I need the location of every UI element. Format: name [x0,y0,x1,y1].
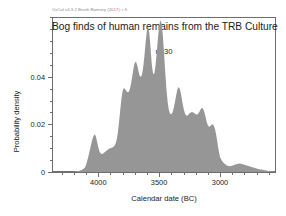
y-tick [48,77,52,78]
x-tick [135,173,136,175]
x-tick [123,173,124,175]
x-axis-title: Calendar date (BC) [52,194,276,203]
x-tick [232,173,233,175]
x-tick [269,173,270,175]
y-tick [50,65,52,66]
y-tick [50,160,52,161]
y-tick-label: 0.02 [0,120,45,129]
x-tick-label: 3500 [151,178,167,187]
x-tick [196,173,197,175]
y-tick-label: 0.04 [0,72,45,81]
x-tick [220,173,221,177]
y-tick [50,17,52,18]
x-tick-label: 4000 [90,178,106,187]
x-tick [159,173,160,177]
x-tick-label: 3000 [212,178,228,187]
x-tick [86,173,87,175]
y-tick [48,124,52,125]
y-tick [48,172,52,173]
x-tick [208,173,209,175]
x-tick [257,173,258,175]
x-tick [110,173,111,175]
y-tick [50,41,52,42]
y-tick-label: 0 [0,168,45,177]
x-tick [62,173,63,175]
x-tick [74,173,75,175]
x-tick [147,173,148,175]
y-tick [50,101,52,102]
x-tick [98,173,99,177]
y-tick [50,148,52,149]
y-tick [50,89,52,90]
y-tick [50,136,52,137]
x-tick [171,173,172,175]
oxcal-figure: OxCal v4.3.2 Bronk Ramsey (2017); r:5 Bo… [0,0,286,216]
y-tick [50,29,52,30]
summed-probability-distribution [53,18,275,172]
y-tick [50,112,52,113]
x-tick [244,173,245,175]
y-axis-title: Probability density [12,67,21,177]
oxcal-credit-line: OxCal v4.3.2 Bronk Ramsey (2017); r:5 [52,7,127,12]
x-tick [184,173,185,175]
y-tick [50,53,52,54]
